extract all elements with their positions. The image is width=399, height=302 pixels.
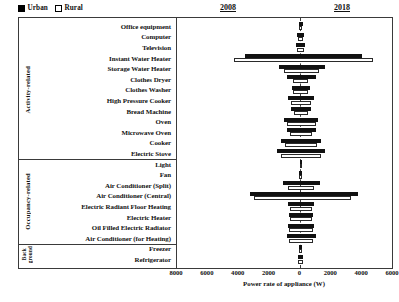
category-label: Cooker [149,138,171,147]
category-label: Oven [156,117,172,126]
category-label: Bread Machine [126,107,171,116]
category-label: Air Conditioner (Central) [96,191,171,200]
bar-rural [299,26,302,30]
category-label: Electric Stove [131,149,171,158]
category-label: Clothes Dryer [130,75,171,84]
x-tick-label: 8000 [169,269,182,276]
group-divider [19,244,176,245]
plot-area [176,18,392,268]
legend-item-rural: Rural [55,4,83,12]
bar-rural [284,69,319,73]
bar-rural [299,175,302,179]
category-label: Television [142,43,171,52]
chart-legend: Urban Rural [18,4,83,12]
panel-header-2008: 2008 [178,3,278,12]
category-label: Electric Heater [127,213,171,222]
category-label: Refrigerator [134,255,171,264]
category-label: Air Conditioner (Split) [105,181,171,190]
category-label: Storage Water Heater [108,64,171,73]
x-tick-label: 6000 [385,269,398,276]
panel-header-2018: 2018 [292,3,392,12]
x-tick-label: 0 [298,269,301,276]
category-label: Fan [160,170,171,179]
group-label-column: Activity-relatedOccupancy-relatedBack gr… [19,18,35,268]
x-tick-label: 4000 [355,269,368,276]
bar-rural [299,249,302,253]
category-label: Light [155,160,171,169]
group-label-2: Back ground [19,244,35,265]
category-label: Clothes Washer [125,85,171,94]
category-label: Electric Radiant Floor Heating [81,202,171,211]
legend-label-rural: Rural [64,4,82,12]
group-label-text: Back ground [21,244,33,265]
x-tick-label: 6000 [200,269,213,276]
bar-rural [290,207,313,211]
x-tick-label: 2000 [262,269,275,276]
bar-rural [254,196,351,200]
bar-rural [293,90,308,94]
x-tick-label: 4000 [231,269,244,276]
bar-rural [290,132,313,136]
bar-rural [281,154,321,158]
x-tick-label: 2000 [324,269,337,276]
bar-rural [287,122,316,126]
x-axis-ticks: 80006000400020000200040006000 [176,269,392,279]
bar-rural [298,37,303,41]
group-divider [19,159,176,160]
bar-rural [293,79,308,83]
bar-rural [291,101,312,105]
bar-rural [289,239,314,243]
bar-rural [294,111,308,115]
bar-rural [300,164,302,168]
group-label-text: Occupancy-related [24,173,31,230]
category-label: Office equipment [121,22,171,31]
filled-square-icon [18,5,25,12]
category-label: High Pressure Cooker [107,96,171,105]
bar-rural [298,260,302,264]
bar-rural [288,186,314,190]
bar-rural [289,228,314,232]
legend-label-urban: Urban [28,4,48,12]
x-axis-title: Power rate of appliance (W) [176,280,392,287]
category-label-column: Office equipmentComputerTelevisionInstan… [34,18,174,268]
category-label: Freezer [149,244,171,253]
bar-rural [234,58,373,62]
legend-item-urban: Urban [18,4,48,12]
category-label: Air Conditioner (for Heating) [85,234,171,243]
group-label-0: Activity-related [19,21,35,159]
bar-rural [285,143,317,147]
empty-square-icon [55,5,62,12]
bar-rural [297,48,304,52]
group-label-1: Occupancy-related [19,159,35,244]
category-label: Microwave Oven [122,128,172,137]
category-label: Oil Filled Electric Radiator [92,223,171,232]
group-label-text: Activity-related [24,66,31,113]
category-label: Computer [141,32,171,41]
bar-rural [290,217,313,221]
category-label: Instant Water Heater [109,54,171,63]
